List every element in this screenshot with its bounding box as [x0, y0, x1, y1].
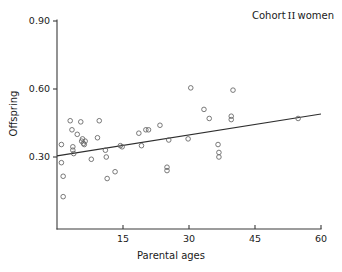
x-tick-label: 15 — [108, 233, 138, 244]
data-point — [158, 123, 163, 128]
data-point — [217, 155, 222, 160]
axes — [57, 20, 321, 229]
data-point — [165, 168, 170, 173]
x-axis-ticks — [123, 225, 321, 229]
data-point — [75, 132, 80, 137]
x-tick-label: 30 — [174, 233, 204, 244]
plot-canvas — [0, 0, 342, 272]
data-point — [97, 118, 102, 123]
y-tick-label: 0.90 — [8, 15, 50, 26]
y-axis-label: Offspring — [8, 79, 19, 149]
data-point — [89, 157, 94, 162]
data-point — [78, 120, 83, 125]
data-point — [217, 150, 222, 155]
data-point — [61, 174, 66, 179]
data-point — [229, 117, 234, 122]
data-point — [186, 137, 191, 142]
data-point — [216, 142, 221, 147]
chart-title: CohortIIwomen — [252, 10, 334, 21]
data-points — [59, 86, 300, 199]
data-point — [188, 86, 193, 91]
data-point — [139, 143, 144, 148]
data-point — [70, 128, 75, 133]
data-point — [104, 155, 109, 160]
data-point — [59, 142, 64, 147]
data-point — [68, 118, 73, 123]
x-tick-label: 45 — [240, 233, 270, 244]
scatter-plot-figure: 0.300.600.90 15304560 Offspring Parental… — [0, 0, 342, 272]
x-axis-label: Parental ages — [0, 250, 342, 261]
chart-title-roman-numeral: II — [286, 10, 298, 21]
data-point — [296, 116, 301, 121]
data-point — [207, 116, 212, 121]
data-point — [105, 176, 110, 181]
y-axis-ticks — [53, 21, 57, 157]
chart-title-prefix: Cohort — [252, 10, 286, 21]
data-point — [61, 194, 66, 199]
data-point — [95, 135, 100, 140]
data-point — [71, 145, 76, 150]
y-tick-label: 0.30 — [8, 151, 50, 162]
chart-title-suffix: women — [297, 10, 334, 21]
data-point — [137, 131, 142, 136]
data-point — [202, 107, 207, 112]
data-point — [113, 169, 118, 174]
data-point — [59, 160, 64, 165]
data-point — [231, 88, 236, 93]
x-tick-label: 60 — [306, 233, 336, 244]
